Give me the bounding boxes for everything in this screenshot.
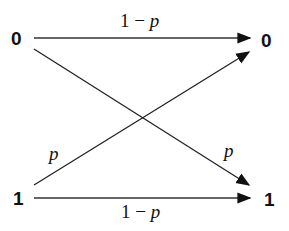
edge-0-to-0-label: 1 − p xyxy=(120,10,159,31)
edge-1-to-1-label: 1 − p xyxy=(121,201,160,222)
label-var: p xyxy=(148,10,160,31)
label-var: p xyxy=(149,201,161,222)
input-node-1: 1 xyxy=(13,188,24,209)
input-node-0: 0 xyxy=(11,28,22,49)
edge-0-to-1-label: p xyxy=(222,140,234,161)
label-prefix: 1 − xyxy=(120,10,150,31)
output-node-1: 1 xyxy=(264,189,275,210)
edge-1-to-0-label: p xyxy=(47,143,59,164)
bsc-diagram: 0 1 0 1 1 − p p p 1 − p xyxy=(0,0,289,231)
label-prefix: 1 − xyxy=(121,201,151,222)
output-node-0: 0 xyxy=(261,30,272,51)
